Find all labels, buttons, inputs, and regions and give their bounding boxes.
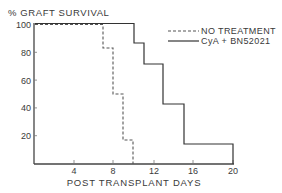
chart-title: % GRAFT SURVIVAL xyxy=(8,7,109,18)
x-tick-labels: 4 8 12 16 20 xyxy=(71,166,238,176)
x-tick-12: 12 xyxy=(149,166,159,176)
x-tick-4: 4 xyxy=(71,166,76,176)
y-tick-40: 40 xyxy=(21,103,31,113)
legend-label-cya-bn52021: CyA + BN52021 xyxy=(201,36,271,46)
y-tick-20: 20 xyxy=(21,131,31,141)
y-tick-60: 60 xyxy=(21,76,31,86)
survival-chart: % GRAFT SURVIVAL 100 80 60 40 20 4 8 12 … xyxy=(0,0,282,193)
y-tick-80: 80 xyxy=(21,48,31,58)
series-no-treatment xyxy=(35,25,133,165)
x-axis-label: POST TRANSPLANT DAYS xyxy=(67,177,202,188)
x-tick-20: 20 xyxy=(228,166,238,176)
y-tick-labels: 100 80 60 40 20 xyxy=(16,20,31,141)
x-tick-8: 8 xyxy=(110,166,115,176)
y-tick-100: 100 xyxy=(16,20,31,30)
legend: NO TREATMENT CyA + BN52021 xyxy=(168,26,276,46)
x-tick-16: 16 xyxy=(188,166,198,176)
legend-label-no-treatment: NO TREATMENT xyxy=(201,26,276,36)
